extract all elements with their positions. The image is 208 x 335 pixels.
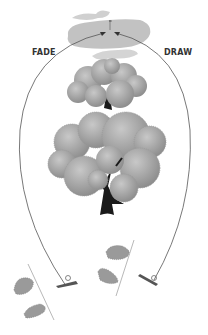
- fade-stance: [14, 264, 78, 320]
- large-tree: [48, 112, 166, 215]
- fade-label: FADE: [32, 48, 56, 57]
- draw-stance: [98, 240, 158, 296]
- draw-label: DRAW: [164, 48, 192, 57]
- small-tree: [67, 58, 147, 110]
- putting-green: [68, 10, 151, 59]
